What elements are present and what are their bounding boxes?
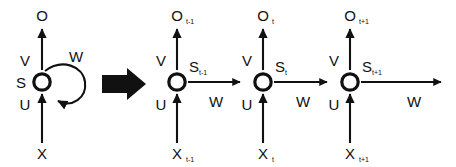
- folded-state-label: S: [16, 74, 26, 91]
- folded-input-label: X: [37, 145, 47, 162]
- folded-weight-u-label: U: [20, 96, 31, 113]
- folded-weight-v-label: V: [20, 52, 30, 69]
- rnn-unfolding-diagram: O V S U X W O t-1 V S: [0, 0, 456, 167]
- step-state-label: S: [275, 58, 285, 75]
- step-input-label: X: [258, 145, 268, 162]
- step-input-label: X: [172, 145, 182, 162]
- step-output-subscript: t: [272, 18, 274, 25]
- step-hidden-node: [169, 74, 185, 90]
- folded-rnn-group: O V S U X W: [16, 7, 85, 162]
- step-weight-w-label: W: [407, 93, 422, 110]
- right-arrow-icon: [102, 68, 146, 100]
- step-weight-u-label: U: [329, 96, 340, 113]
- diagram-canvas: O V S U X W O t-1 V S: [0, 0, 456, 167]
- step-weight-u-label: U: [156, 96, 167, 113]
- unfolded-step-t: O t V S t U X t W: [242, 7, 327, 163]
- step-weight-w-label: W: [296, 93, 311, 110]
- step-hidden-node: [255, 74, 271, 90]
- step-weight-v-label: V: [156, 52, 166, 69]
- step-input-subscript: t: [272, 156, 274, 163]
- folded-hidden-node: [34, 74, 50, 90]
- step-hidden-node: [342, 74, 358, 90]
- unfolded-step-t-minus-1: O t-1 V S t-1 U X t-1 W: [156, 7, 240, 163]
- step-state-label: S: [189, 58, 199, 75]
- step-state-subscript: t+1: [372, 69, 382, 76]
- folded-weight-w-label: W: [69, 48, 84, 65]
- step-input-subscript: t+1: [359, 156, 369, 163]
- unfolded-step-t-plus-1: O t+1 V S t+1 U X t+1 W: [329, 7, 441, 163]
- step-state-subscript: t-1: [199, 69, 207, 76]
- step-weight-w-label: W: [209, 93, 224, 110]
- step-output-label: O: [344, 7, 356, 24]
- step-output-subscript: t+1: [359, 18, 369, 25]
- step-output-label: O: [171, 7, 183, 24]
- unfold-transition-arrow: [102, 68, 146, 100]
- step-output-label: O: [257, 7, 269, 24]
- step-weight-v-label: V: [242, 52, 252, 69]
- step-input-subscript: t-1: [186, 156, 194, 163]
- step-weight-u-label: U: [242, 96, 253, 113]
- step-state-subscript: t: [285, 69, 287, 76]
- step-input-label: X: [345, 145, 355, 162]
- folded-output-label: O: [36, 7, 48, 24]
- step-output-subscript: t-1: [186, 18, 194, 25]
- step-weight-v-label: V: [329, 52, 339, 69]
- step-state-label: S: [362, 58, 372, 75]
